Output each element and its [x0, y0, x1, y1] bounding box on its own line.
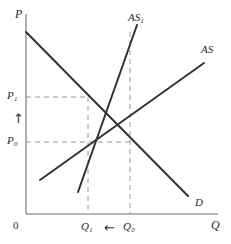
demand-curve [26, 32, 188, 196]
q1-base: Q [81, 220, 89, 232]
q1-sub: 1 [89, 226, 92, 233]
aggregate-supply-curve-label: AS [201, 44, 213, 55]
p1-sub: 1 [14, 95, 17, 102]
supply-demand-diagram: P Q 0 P1 P0 Q1 Q0 ↑ ← D AS AS1 [0, 0, 231, 244]
p0-sub: 0 [14, 140, 17, 147]
x-tick-label-q0: Q0 [123, 221, 134, 232]
aggregate-supply-shifted-curve [78, 25, 137, 192]
p1-base: P [7, 89, 14, 101]
as-label-base: AS [201, 43, 213, 55]
aggregate-supply-shifted-curve-label: AS1 [128, 12, 144, 23]
y-tick-label-p1: P1 [7, 90, 17, 101]
x-tick-label-q1: Q1 [81, 221, 92, 232]
x-axis-label: Q [211, 219, 220, 231]
quantity-decrease-arrow-icon: ← [104, 221, 115, 234]
q0-sub: 0 [131, 226, 134, 233]
aggregate-supply-curve [40, 63, 204, 180]
price-increase-arrow-icon: ↑ [13, 112, 24, 125]
y-axis-label: P [15, 8, 22, 20]
demand-label-base: D [195, 196, 203, 208]
demand-curve-label: D [195, 197, 203, 208]
origin-label: 0 [13, 220, 19, 231]
as1-label-base: AS [128, 11, 140, 23]
q0-base: Q [123, 220, 131, 232]
as1-label-sub: 1 [141, 17, 144, 24]
y-tick-label-p0: P0 [7, 135, 17, 146]
p0-base: P [7, 134, 14, 146]
